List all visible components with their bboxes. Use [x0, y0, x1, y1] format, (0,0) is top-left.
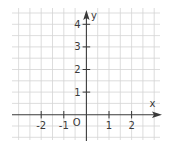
y-axis-label: y — [91, 10, 97, 21]
x-axis-label: x — [150, 98, 156, 109]
y-tick-label: 1 — [74, 87, 80, 98]
y-tick-label: 2 — [74, 64, 80, 75]
y-tick-label: 3 — [74, 41, 80, 52]
y-tick-label: 4 — [74, 19, 80, 30]
x-tick-label: 1 — [106, 120, 112, 131]
origin-label: O — [73, 117, 81, 128]
x-tick-label: -2 — [36, 120, 46, 131]
x-tick-label: 2 — [128, 120, 134, 131]
coordinate-plane: -2 -1 1 2 1 2 3 4 O x y — [0, 0, 170, 146]
x-tick-label: -1 — [59, 120, 69, 131]
